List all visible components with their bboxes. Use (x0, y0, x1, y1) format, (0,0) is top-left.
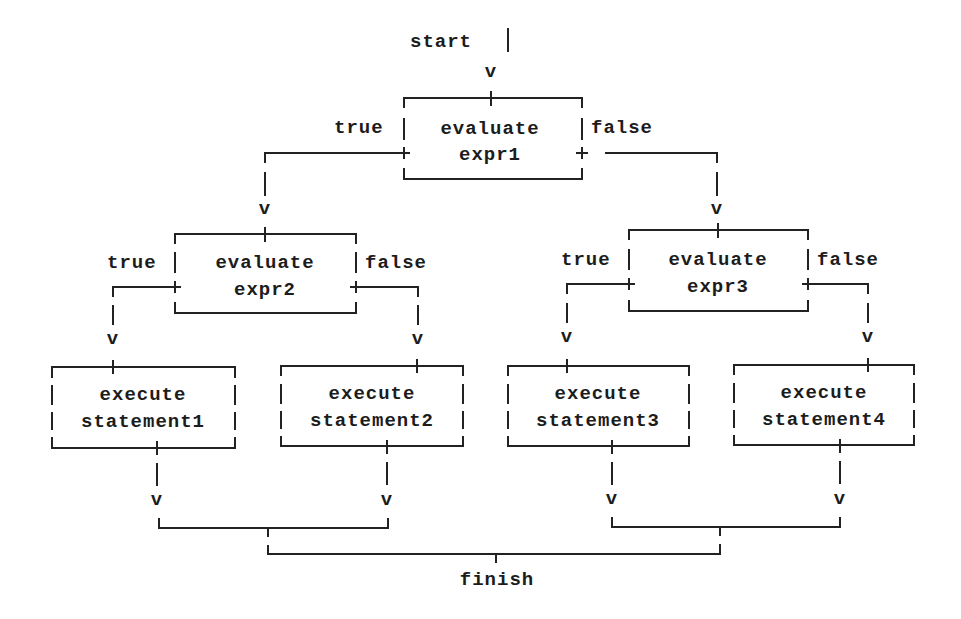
statement4-box (734, 358, 914, 453)
statement1-box (52, 360, 235, 455)
expr3-false-label: false (817, 251, 879, 270)
arrow-down-icon: v (107, 330, 119, 349)
expr2-true-line (113, 287, 169, 297)
arrow-down-icon: v (485, 63, 497, 82)
merge-left-line (159, 518, 388, 528)
statement2-line1: execute (329, 385, 416, 404)
expr1-true-line (265, 153, 398, 163)
merge-right-line (612, 517, 840, 527)
expr2-false-label: false (365, 254, 427, 273)
arrow-down-icon: v (412, 330, 424, 349)
expr2-line1: evaluate (215, 254, 314, 273)
expr1-true-label: true (334, 119, 384, 138)
statement2-line2: statement2 (310, 412, 434, 431)
statement1-line2: statement1 (81, 413, 205, 432)
statement1-line1: execute (100, 386, 187, 405)
expr2-true-label: true (107, 254, 157, 273)
arrow-down-icon: v (151, 491, 163, 510)
statement3-line2: statement3 (536, 412, 660, 431)
arrow-down-icon: v (834, 490, 846, 509)
arrow-down-icon: v (381, 491, 393, 510)
expr3-line1: evaluate (668, 251, 767, 270)
arrow-down-icon: v (606, 490, 618, 509)
statement3-box (508, 359, 689, 454)
statement4-line1: execute (781, 384, 868, 403)
arrow-down-icon: v (561, 328, 573, 347)
expr1-line2: expr1 (459, 146, 521, 165)
expr1-false-line (605, 153, 717, 163)
statement2-box (281, 359, 463, 454)
arrow-down-icon: v (259, 200, 271, 219)
arrow-down-icon: v (711, 200, 723, 219)
start-label: start (410, 33, 472, 52)
expr1-line1: evaluate (440, 120, 539, 139)
arrow-down-icon: v (862, 328, 874, 347)
connector-lines (0, 0, 961, 619)
merge-final-line (268, 544, 720, 554)
flowchart-canvas: start v true false evaluate expr1 v v tr… (0, 0, 961, 619)
expr3-true-label: true (561, 251, 611, 270)
statement4-line2: statement4 (762, 411, 886, 430)
expr1-false-label: false (591, 119, 653, 138)
expr2-false-line (362, 287, 418, 297)
statement3-line1: execute (555, 385, 642, 404)
expr2-line2: expr2 (234, 281, 296, 300)
finish-label: finish (460, 571, 534, 590)
expr3-false-line (814, 284, 868, 294)
expr3-true-line (567, 284, 623, 294)
expr3-line2: expr3 (687, 278, 749, 297)
